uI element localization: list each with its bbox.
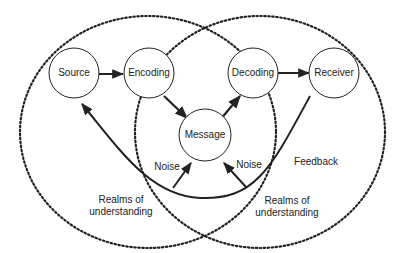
node-receiver: Receiver (309, 48, 359, 98)
encoding-to-message-arrow (164, 96, 187, 118)
realms-right-line2: understanding (255, 207, 318, 218)
noise-left-label: Noise (154, 161, 180, 172)
node-encoding: Encoding (124, 48, 174, 98)
noise-right-label: Noise (236, 159, 262, 170)
realms-right-line1: Realms of (264, 195, 309, 206)
node-source: Source (49, 48, 99, 98)
realms-left-line2: understanding (89, 206, 152, 217)
node-decoding-label: Decoding (232, 67, 274, 78)
realms-left-line1: Realms of (98, 194, 143, 205)
node-encoding-label: Encoding (128, 67, 170, 78)
node-source-label: Source (58, 67, 90, 78)
node-receiver-label: Receiver (314, 67, 354, 78)
node-message-label: Message (185, 129, 226, 140)
feedback-label: Feedback (294, 156, 339, 167)
communication-diagram: Source Encoding Message Decoding Receive… (0, 0, 403, 253)
node-message: Message (179, 109, 231, 161)
node-decoding: Decoding (228, 48, 278, 98)
